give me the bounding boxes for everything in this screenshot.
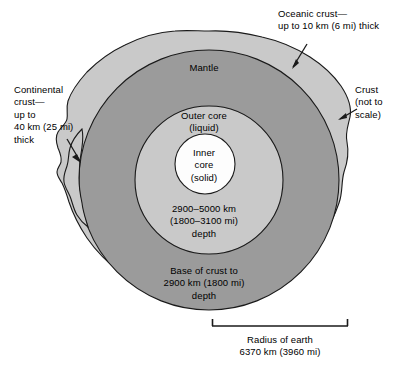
continental-crust-label: Continental crust— up to 40 km (25 mi) t… [14,84,106,146]
earth-cross-section-diagram: Oceanic crust— up to 10 km (6 mi) thick … [0,0,409,374]
radius-scale-caption: Radius of earth 6370 km (3960 mi) [200,334,360,359]
oceanic-crust-label: Oceanic crust— up to 10 km (6 mi) thick [278,8,409,33]
crust-not-to-scale-label: Crust (not to scale) [355,84,409,121]
earth-diagram-svg [0,0,409,374]
mantle-label: Mantle [149,62,259,74]
inner-core-label: Inner core (solid) [166,147,242,184]
outer-core-label: Outer core (liquid) [144,110,264,135]
radius-scale-bar [212,319,348,326]
outer-core-depth-label: 2900–5000 km (1800–3100 mi) depth [136,203,272,240]
mantle-depth-label: Base of crust to 2900 km (1800 mi) depth [134,265,274,302]
